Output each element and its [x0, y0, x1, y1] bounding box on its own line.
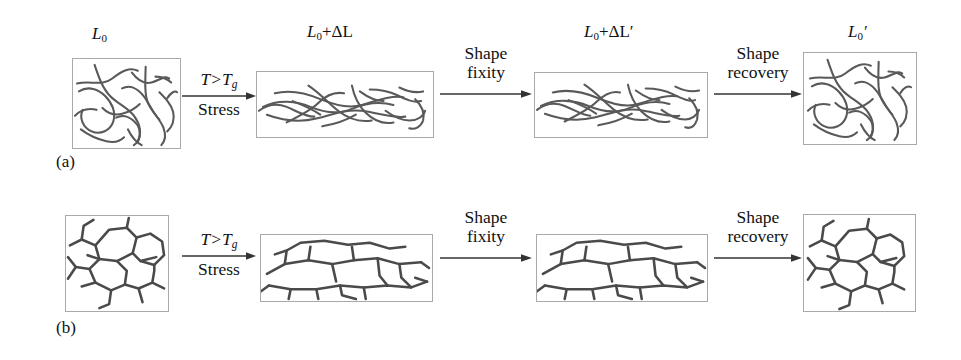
transition-label-line2: Stress — [182, 260, 256, 279]
transition-label-line2: recovery — [714, 227, 802, 246]
state-box-b-initial — [65, 215, 169, 312]
polymer-chain-drawing — [804, 53, 916, 144]
transition-label-line2: Stress — [182, 100, 256, 119]
transition-label-line1: T>Tg — [182, 230, 256, 250]
arrow-right-icon — [182, 90, 256, 100]
length-label-suffix: +ΔL — [322, 22, 353, 41]
transition-label-line1: Shape — [714, 208, 802, 227]
transition-b-heat-and-stress: T>Tg Stress — [182, 230, 256, 279]
transition-label-line1: Shape — [440, 208, 532, 227]
shape-memory-polymer-figure: L0 T>Tg Stress — [0, 0, 961, 360]
polymer-network-drawing — [261, 235, 432, 301]
length-label-prime: ′ — [863, 22, 867, 41]
transition-label-line1: Shape — [714, 44, 802, 63]
state-box-a-deformed — [256, 71, 434, 138]
state-box-b-recovered — [803, 214, 916, 312]
polymer-network-drawing — [804, 215, 915, 311]
state-box-b-deformed — [260, 234, 433, 302]
transition-b-shape-recovery: Shape recovery — [714, 208, 802, 262]
polymer-chain-drawing — [73, 59, 180, 148]
transition-a-heat-and-stress: T>Tg Stress — [182, 70, 256, 119]
transition-label-line1: T>Tg — [182, 70, 256, 90]
length-label-a-fixed: L0+ΔL′ — [584, 22, 634, 42]
transition-b-shape-fixity: Shape fixity — [440, 208, 532, 262]
length-label-a-recovered: L0′ — [848, 22, 867, 42]
panel-label-b: (b) — [56, 318, 76, 338]
state-box-a-initial — [72, 58, 181, 149]
transition-label-line2: recovery — [714, 63, 802, 82]
transition-label-line2: fixity — [440, 227, 532, 246]
arrow-right-icon — [440, 88, 532, 98]
arrow-right-icon — [714, 252, 802, 262]
transition-label-line2: fixity — [440, 63, 532, 82]
arrow-right-icon — [714, 88, 802, 98]
polymer-network-drawing — [66, 216, 168, 311]
polymer-network-drawing — [537, 235, 707, 301]
state-box-b-fixed — [536, 234, 708, 302]
transition-a-shape-recovery: Shape recovery — [714, 44, 802, 98]
arrow-right-icon — [440, 252, 532, 262]
state-box-a-fixed — [534, 72, 708, 138]
length-label-a-initial: L0 — [92, 24, 107, 44]
polymer-chain-drawing — [257, 72, 433, 137]
arrow-right-icon — [182, 250, 256, 260]
length-label-suffix: +ΔL′ — [599, 22, 634, 41]
transition-label-line1: Shape — [440, 44, 532, 63]
polymer-chain-drawing — [535, 73, 707, 137]
panel-label-a: (a) — [56, 152, 75, 172]
state-box-a-recovered — [803, 52, 917, 145]
length-label-a-deformed: L0+ΔL — [307, 22, 353, 42]
transition-a-shape-fixity: Shape fixity — [440, 44, 532, 98]
length-label-sub: 0 — [101, 32, 107, 44]
